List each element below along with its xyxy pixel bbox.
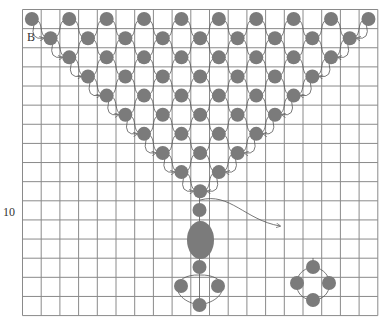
bead: [249, 50, 263, 64]
bead: [322, 276, 336, 290]
row-number-label: 10: [3, 205, 15, 220]
bead: [81, 31, 95, 45]
bead: [324, 12, 338, 26]
bead: [156, 31, 170, 45]
bead: [193, 31, 207, 45]
bead: [249, 89, 263, 103]
bead: [249, 127, 263, 141]
bead: [249, 12, 263, 26]
bead: [193, 298, 207, 312]
bead: [100, 12, 114, 26]
large-oval-bead: [187, 221, 214, 259]
bead: [137, 50, 151, 64]
bead: [156, 146, 170, 160]
bead: [137, 89, 151, 103]
bead: [81, 69, 95, 83]
bead: [231, 31, 245, 45]
bead: [268, 31, 282, 45]
bead: [174, 89, 188, 103]
bead: [212, 127, 226, 141]
bead: [287, 89, 301, 103]
bead: [193, 260, 207, 274]
bead: [212, 165, 226, 179]
bead: [212, 12, 226, 26]
bead: [193, 184, 207, 198]
bead: [231, 108, 245, 122]
bead: [343, 31, 357, 45]
bead: [231, 146, 245, 160]
bead: [305, 31, 319, 45]
bead: [193, 146, 207, 160]
bead: [62, 12, 76, 26]
bead: [287, 50, 301, 64]
bead: [306, 293, 320, 307]
bead: [174, 127, 188, 141]
bead: [174, 279, 188, 293]
bead: [118, 31, 132, 45]
beadwork-pattern-diagram: [0, 0, 386, 327]
bead: [156, 69, 170, 83]
bead: [137, 127, 151, 141]
bead: [290, 276, 304, 290]
bead: [156, 108, 170, 122]
bead: [305, 69, 319, 83]
bead: [174, 50, 188, 64]
bead: [193, 203, 207, 217]
bead: [118, 69, 132, 83]
bead: [100, 50, 114, 64]
exit-thread-arrow: [200, 199, 280, 226]
bead: [62, 50, 76, 64]
bead: [212, 50, 226, 64]
bead: [231, 69, 245, 83]
bead: [287, 12, 301, 26]
bead: [361, 12, 375, 26]
bead: [100, 89, 114, 103]
bead: [174, 165, 188, 179]
bead: [25, 12, 39, 26]
bead: [174, 12, 188, 26]
bead: [306, 260, 320, 274]
bead: [137, 12, 151, 26]
bead: [193, 69, 207, 83]
bead: [268, 69, 282, 83]
start-marker-label: B: [27, 30, 35, 45]
bead: [268, 108, 282, 122]
bead: [212, 89, 226, 103]
bead: [324, 50, 338, 64]
bead: [193, 108, 207, 122]
bead: [211, 279, 225, 293]
bead: [44, 31, 58, 45]
bead: [118, 108, 132, 122]
